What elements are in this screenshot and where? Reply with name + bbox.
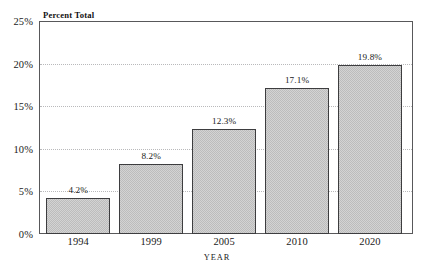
x-tick-label-2005: 2005 (213, 236, 234, 247)
y-axis-title: Percent Total (42, 10, 96, 21)
y-tick-label-15: 15% (13, 101, 33, 112)
x-tick-label-1994: 1994 (68, 236, 89, 247)
bar-chart-figure: 25% 20% 15% 10% 5% 0% Percent Total 4.2%… (0, 0, 434, 274)
bar-group-2010[interactable]: 17.1% (265, 21, 329, 234)
x-tick-label-2010: 2010 (286, 236, 307, 247)
bar-1999[interactable] (119, 164, 183, 234)
x-axis: 1994 1999 2005 2010 2020 (39, 236, 413, 252)
bar-1994[interactable] (46, 198, 110, 234)
bar-group-1994[interactable]: 4.2% (46, 21, 110, 234)
bar-group-1999[interactable]: 8.2% (119, 21, 183, 234)
bars-layer: 4.2% 8.2% 12.3% 17.1% 19.8% (39, 21, 413, 234)
bar-value-label-2010: 17.1% (285, 75, 309, 85)
bar-2005[interactable] (192, 129, 256, 234)
bar-group-2020[interactable]: 19.8% (338, 21, 402, 234)
bar-2010[interactable] (265, 88, 329, 234)
y-tick-label-0: 0% (19, 229, 33, 240)
bar-value-label-2005: 12.3% (212, 116, 236, 126)
y-tick-label-5: 5% (19, 186, 33, 197)
bar-value-label-1994: 4.2% (68, 185, 88, 195)
y-axis: 25% 20% 15% 10% 5% 0% (0, 21, 36, 234)
bar-group-2005[interactable]: 12.3% (192, 21, 256, 234)
x-axis-title: YEAR (0, 253, 434, 262)
bar-2020[interactable] (338, 65, 402, 234)
y-tick-label-10: 10% (13, 143, 33, 154)
x-tick-label-2020: 2020 (359, 236, 380, 247)
y-tick-label-25: 25% (13, 16, 33, 27)
x-tick-label-1999: 1999 (140, 236, 161, 247)
bar-value-label-1999: 8.2% (141, 151, 161, 161)
bar-value-label-2020: 19.8% (358, 52, 382, 62)
y-tick-label-20: 20% (13, 58, 33, 69)
bottom-caption (0, 267, 434, 274)
